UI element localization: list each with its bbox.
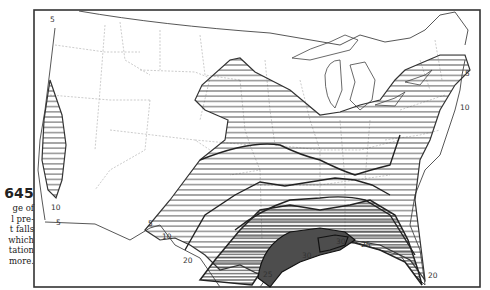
isoline-label: 20 [428,271,438,280]
isoline-label: 5 [50,15,55,24]
isoline-label: 5 [56,218,61,227]
precipitation-map: 5 10 5 5 10 20 25 30 30 25 20 5 10 [0,0,490,290]
isoline-label: 10 [460,103,470,112]
isoline-label: 10 [51,203,61,212]
isoline-label: 5 [148,219,153,228]
isoline-label: 25 [361,240,371,249]
isoline-label: 30 [302,251,312,260]
isoline-label: 10 [162,232,172,241]
isoline-label: 30 [336,237,346,246]
isoline-label: 25 [263,270,273,279]
isoline-label: 20 [183,256,193,265]
isoline-label: 5 [465,69,470,78]
